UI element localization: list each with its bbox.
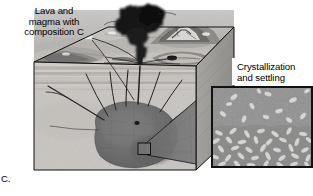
crystallization-inset — [211, 86, 313, 168]
strata-layers — [34, 66, 196, 90]
label-crystallization: Crystallization and settling — [237, 62, 295, 83]
block-front-face — [30, 62, 212, 172]
settled-crystal-pile — [211, 125, 313, 169]
callout-box — [138, 143, 151, 155]
label-lava-magma: Lava and magma with composition C — [8, 6, 100, 38]
panel-letter: C. — [1, 174, 10, 185]
